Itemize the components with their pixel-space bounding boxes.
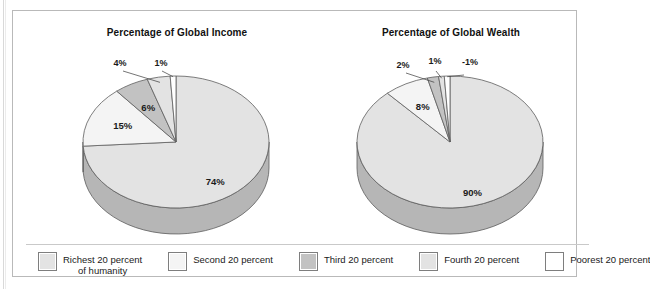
legend-label-third: Third 20 percent: [324, 252, 393, 265]
svg-text:74%: 74%: [206, 176, 226, 187]
svg-text:90%: 90%: [463, 187, 483, 198]
legend-item-poorest: Poorest 20 percent: [545, 252, 650, 271]
pie-chart-wealth: 90%8%2%1%-1%: [335, 47, 559, 237]
legend-swatch-poorest: [545, 252, 564, 271]
pie-chart-income: 74%15%6%4%1%: [61, 47, 285, 237]
legend-item-fourth: Fourth 20 percent: [419, 252, 519, 271]
legend-label-richest: Richest 20 percent of humanity: [63, 252, 142, 276]
legend-swatch-richest: [38, 252, 57, 271]
svg-text:2%: 2%: [396, 60, 409, 70]
svg-text:15%: 15%: [113, 120, 133, 131]
chart-title-wealth: Percentage of Global Wealth: [351, 27, 551, 38]
svg-text:1%: 1%: [154, 58, 167, 68]
chart-legend: Richest 20 percent of humanity Second 20…: [26, 244, 589, 286]
legend-row: Richest 20 percent of humanity Second 20…: [26, 252, 589, 276]
legend-label-poorest: Poorest 20 percent: [570, 252, 650, 265]
legend-label-fourth: Fourth 20 percent: [444, 252, 519, 265]
legend-item-second: Second 20 percent: [168, 252, 273, 271]
legend-item-richest: Richest 20 percent of humanity: [38, 252, 142, 276]
legend-label-richest-line1: Richest 20 percent: [63, 254, 142, 265]
legend-swatch-fourth: [419, 252, 438, 271]
svg-text:4%: 4%: [113, 58, 126, 68]
page-edge-rule-outer: [3, 0, 4, 289]
legend-item-third: Third 20 percent: [299, 252, 393, 271]
svg-text:-1%: -1%: [462, 57, 478, 67]
figure-panel: Percentage of Global Income Percentage o…: [12, 10, 577, 277]
legend-label-second: Second 20 percent: [193, 252, 273, 265]
page-edge-rule-inner: [5, 0, 6, 289]
legend-label-richest-line2: of humanity: [63, 265, 142, 276]
legend-swatch-third: [299, 252, 318, 271]
svg-text:8%: 8%: [416, 101, 430, 112]
chart-title-income: Percentage of Global Income: [77, 27, 277, 38]
svg-text:6%: 6%: [141, 102, 155, 113]
legend-swatch-second: [168, 252, 187, 271]
svg-text:1%: 1%: [428, 56, 441, 66]
